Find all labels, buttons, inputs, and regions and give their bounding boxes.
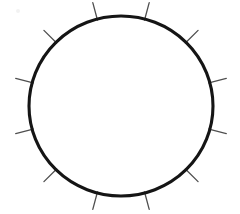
tick-10: [16, 129, 33, 134]
scan-speck: [16, 9, 20, 13]
tick-5: [209, 129, 226, 134]
main-circle: [29, 16, 213, 196]
tick-7: [145, 192, 150, 209]
tick-8: [93, 192, 98, 209]
circle-diagram: [0, 0, 240, 214]
tick-6: [185, 169, 198, 182]
figure-canvas: [0, 0, 240, 214]
tick-2: [145, 3, 150, 20]
tick-1: [93, 3, 98, 20]
tick-4: [209, 78, 226, 83]
tick-11: [16, 78, 33, 83]
tick-mark-group: [16, 3, 227, 210]
tick-3: [185, 30, 198, 43]
tick-9: [44, 169, 57, 182]
tick-12: [44, 30, 57, 43]
